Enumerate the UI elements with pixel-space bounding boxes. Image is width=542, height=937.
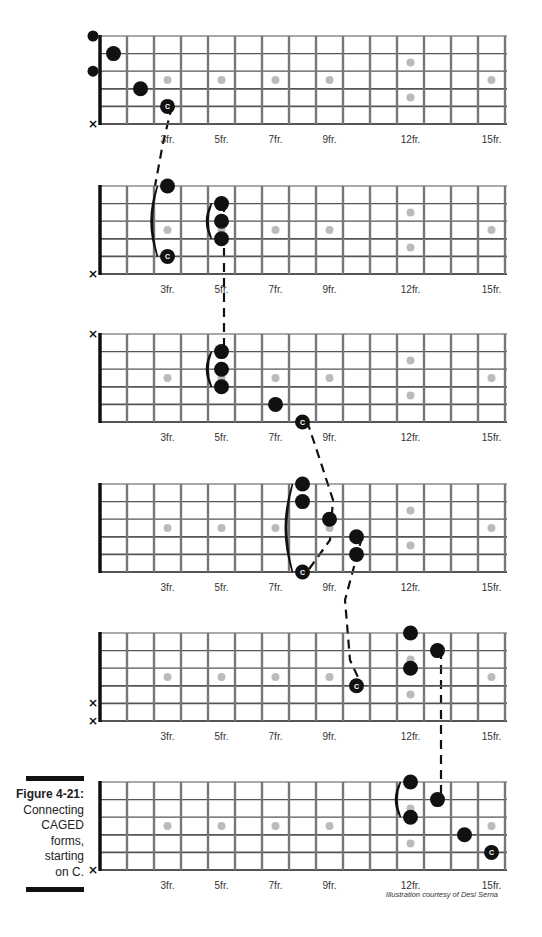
note-dot [214, 344, 229, 359]
inlay-dot [407, 208, 415, 216]
fretboard-C-form-octave: 3fr.5fr.7fr.9fr.12fr.15fr.×C [88, 775, 507, 892]
note-dot [214, 362, 229, 377]
fret-label: 3fr. [161, 432, 175, 443]
inlay-dot [488, 524, 496, 532]
fret-label: 7fr. [269, 731, 283, 742]
inlay-dot [488, 76, 496, 84]
root-note-label: C [165, 103, 170, 110]
inlay-dot [326, 226, 334, 234]
fret-label: 12fr. [401, 284, 420, 295]
note-dot [106, 46, 121, 61]
inlay-dot [164, 374, 172, 382]
fret-label: 9fr. [323, 582, 337, 593]
inlay-dot [488, 673, 496, 681]
fret-label: 12fr. [401, 432, 420, 443]
inlay-dot [218, 822, 226, 830]
fret-label: 5fr. [215, 432, 229, 443]
inlay-dot [407, 691, 415, 699]
note-dot [403, 775, 418, 790]
inlay-dot [272, 76, 280, 84]
fret-label: 9fr. [323, 731, 337, 742]
inlay-dot [407, 244, 415, 252]
figure-title: Figure 4-21: [0, 787, 84, 803]
muted-string-x-icon: × [88, 267, 98, 281]
note-dot [295, 494, 310, 509]
fret-label: 5fr. [215, 880, 229, 891]
inlay-dot [407, 542, 415, 550]
inlay-dot [164, 226, 172, 234]
inlay-dot [407, 58, 415, 66]
caption-line: Connecting [0, 803, 84, 819]
inlay-dot [407, 506, 415, 514]
inlay-dot [326, 822, 334, 830]
fret-label: 5fr. [215, 731, 229, 742]
muted-string-x-icon: × [88, 714, 98, 728]
fret-label: 7fr. [269, 432, 283, 443]
inlay-dot [488, 374, 496, 382]
fret-label: 5fr. [215, 284, 229, 295]
inlay-dot [407, 840, 415, 848]
fret-label: 7fr. [269, 880, 283, 891]
note-dot [214, 231, 229, 246]
fret-label: 3fr. [161, 582, 175, 593]
inlay-dot [218, 76, 226, 84]
illustration-credit: Illustration courtesy of Desi Serna [386, 890, 498, 899]
fret-label: 12fr. [401, 731, 420, 742]
note-dot [160, 179, 175, 194]
fret-label: 15fr. [482, 134, 501, 145]
fret-label: 15fr. [482, 432, 501, 443]
caption-bottom-rule [26, 887, 84, 892]
root-note-label: C [354, 683, 359, 690]
inlay-dot [488, 226, 496, 234]
inlay-dot [407, 356, 415, 364]
open-string-dot [88, 31, 99, 42]
note-dot [403, 661, 418, 676]
fret-label: 3fr. [161, 731, 175, 742]
caption-line: starting [0, 849, 84, 865]
note-dot [403, 810, 418, 825]
fret-label: 3fr. [161, 284, 175, 295]
note-dot [214, 196, 229, 211]
fretboard-A-form: 3fr.5fr.7fr.9fr.12fr.15fr.×C [88, 179, 507, 296]
root-note-label: C [300, 569, 305, 576]
inlay-dot [164, 673, 172, 681]
fret-label: 3fr. [161, 134, 175, 145]
figure-caption: Figure 4-21: Connecting CAGED forms, sta… [0, 776, 84, 892]
fret-label: 5fr. [215, 582, 229, 593]
inlay-dot [218, 673, 226, 681]
note-dot [457, 827, 472, 842]
fret-label: 12fr. [401, 582, 420, 593]
root-note-label: C [165, 253, 170, 260]
open-string-dot [88, 66, 99, 77]
note-dot [349, 547, 364, 562]
fret-label: 15fr. [482, 582, 501, 593]
note-dot [133, 81, 148, 96]
fret-label: 7fr. [269, 582, 283, 593]
caption-top-rule [26, 776, 84, 781]
muted-string-x-icon: × [88, 327, 98, 341]
note-dot [214, 214, 229, 229]
note-dot [322, 512, 337, 527]
fret-label: 9fr. [323, 134, 337, 145]
fret-label: 9fr. [323, 284, 337, 295]
fretboard-D-form: 3fr.5fr.7fr.9fr.12fr.15fr.××C [88, 626, 507, 743]
inlay-dot [326, 76, 334, 84]
caption-line: CAGED [0, 818, 84, 834]
fretboard-C-form: 3fr.5fr.7fr.9fr.12fr.15fr.×C [88, 31, 508, 146]
note-dot [295, 477, 310, 492]
inlay-dot [272, 374, 280, 382]
inlay-dot [407, 94, 415, 102]
inlay-dot [164, 76, 172, 84]
caption-line: on C. [0, 865, 84, 881]
fret-label: 15fr. [482, 284, 501, 295]
muted-string-x-icon: × [88, 696, 98, 710]
note-dot [430, 792, 445, 807]
fret-label: 3fr. [161, 880, 175, 891]
inlay-dot [272, 524, 280, 532]
inlay-dot [326, 374, 334, 382]
note-dot [214, 379, 229, 394]
fretboard-E-form: 3fr.5fr.7fr.9fr.12fr.15fr.C [100, 477, 507, 594]
dashed-connector [307, 421, 333, 572]
fret-label: 15fr. [482, 731, 501, 742]
root-note-label: C [300, 419, 305, 426]
